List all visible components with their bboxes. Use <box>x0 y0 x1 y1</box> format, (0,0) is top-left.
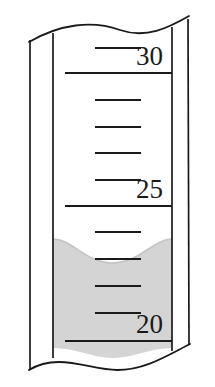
scale-label-25: 25 <box>136 176 163 203</box>
graduated-cylinder-figure: 30 25 20 <box>0 0 215 387</box>
tube-inner-left-wall <box>52 33 53 358</box>
tube-outer-left-wall <box>29 40 30 369</box>
scale-label-30: 30 <box>136 43 163 70</box>
tube-inner-right-wall <box>172 27 173 351</box>
burette-drawing <box>0 0 215 387</box>
tube-outer-right-wall <box>188 19 189 345</box>
scale-label-20: 20 <box>136 311 163 338</box>
